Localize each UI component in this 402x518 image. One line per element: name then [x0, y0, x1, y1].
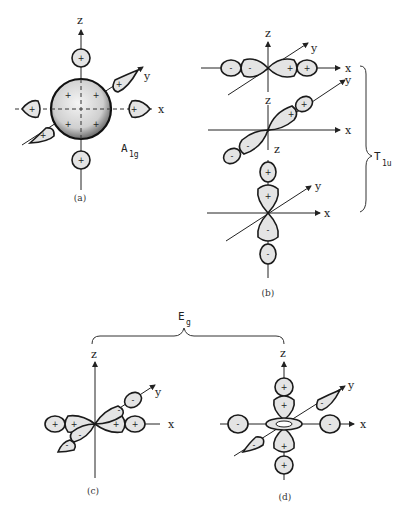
svg-text:+: + [71, 420, 78, 429]
svg-text:+: + [132, 420, 139, 429]
svg-text:z: z [274, 143, 280, 156]
svg-text:x: x [158, 103, 165, 116]
caption-c: (c) [87, 486, 99, 496]
svg-text:z: z [265, 27, 271, 40]
svg-text:-: - [253, 441, 256, 450]
svg-text:+: + [93, 91, 100, 100]
svg-text:+: + [281, 401, 288, 410]
t1u-brace [360, 66, 372, 212]
symmetry-label-eg: E g [178, 310, 191, 327]
svg-text:y: y [154, 386, 162, 399]
svg-text:-: - [118, 406, 121, 415]
svg-text:T: T [374, 150, 381, 163]
caption-a: (a) [74, 193, 86, 203]
eg-brace [92, 328, 284, 344]
svg-text:g: g [186, 318, 191, 327]
svg-text:x: x [168, 418, 175, 431]
svg-text:-: - [329, 420, 332, 429]
svg-text:z: z [280, 347, 286, 360]
svg-text:+: + [304, 64, 311, 73]
panel-b: - - + + z y x + + - - z y x + + - - [201, 27, 392, 298]
svg-text:+: + [78, 156, 85, 165]
svg-text:-: - [132, 396, 135, 405]
panel-a: + + + + + + + + + + z y x A 1g (a) [15, 14, 165, 203]
svg-text:+: + [29, 105, 36, 114]
svg-text:-: - [267, 250, 270, 259]
symmetry-label-t1u: T 1u [374, 150, 392, 168]
panel-c: + + + + - - - - z y x (c) [45, 348, 175, 496]
svg-text:-: - [267, 226, 270, 235]
svg-text:y: y [143, 70, 151, 83]
orbital-diagram: + + + + + + + + + + z y x A 1g (a) - - [0, 0, 402, 518]
panel-d: + + + + - - - - z y x (d) [220, 347, 367, 502]
svg-text:+: + [116, 80, 123, 89]
svg-text:1u: 1u [382, 159, 392, 168]
svg-text:y: y [347, 379, 355, 392]
svg-text:+: + [265, 192, 272, 201]
symmetry-label-a1g: A 1g [121, 142, 139, 159]
svg-text:+: + [131, 105, 138, 114]
svg-text:z: z [265, 94, 271, 107]
svg-text:-: - [79, 431, 82, 440]
svg-text:+: + [265, 168, 272, 177]
svg-text:+: + [40, 131, 47, 140]
svg-text:z: z [91, 348, 97, 361]
svg-text:+: + [65, 91, 72, 100]
svg-text:-: - [247, 142, 250, 151]
caption-b: (b) [262, 288, 275, 298]
svg-text:y: y [314, 180, 322, 193]
svg-text:-: - [321, 399, 324, 408]
svg-text:+: + [281, 383, 288, 392]
svg-text:y: y [344, 74, 352, 87]
svg-text:+: + [65, 120, 72, 129]
svg-text:+: + [52, 420, 59, 429]
svg-text:E: E [178, 310, 185, 323]
svg-text:x: x [360, 418, 367, 431]
svg-text:-: - [231, 152, 234, 161]
svg-text:+: + [287, 64, 294, 73]
svg-text:+: + [281, 442, 288, 451]
svg-text:x: x [345, 124, 352, 137]
svg-text:1g: 1g [129, 150, 139, 159]
svg-text:x: x [324, 207, 331, 220]
svg-text:+: + [301, 100, 308, 109]
svg-text:A: A [121, 142, 128, 155]
svg-text:-: - [66, 441, 69, 450]
svg-text:-: - [230, 64, 233, 73]
svg-text:y: y [310, 42, 318, 55]
svg-text:+: + [78, 54, 85, 63]
svg-text:+: + [93, 120, 100, 129]
svg-text:+: + [288, 110, 295, 119]
svg-text:-: - [237, 420, 240, 429]
caption-d: (d) [279, 492, 292, 502]
svg-text:z: z [77, 14, 83, 27]
svg-text:-: - [249, 64, 252, 73]
svg-text:+: + [281, 461, 288, 470]
